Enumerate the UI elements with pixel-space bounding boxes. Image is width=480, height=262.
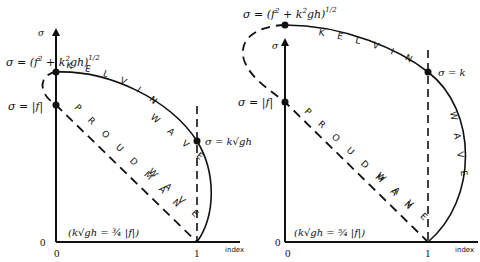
kgh-point-label: σ = k√gh bbox=[205, 136, 252, 147]
x-axis-label: index bbox=[225, 246, 244, 254]
kelvin-wave-curve bbox=[285, 25, 466, 242]
proudman-wave-curve bbox=[42, 72, 197, 242]
kelvin-label: K E L V I N bbox=[318, 27, 419, 66]
x-tick-1: 1 bbox=[425, 247, 431, 259]
y-axis-label: σ bbox=[38, 28, 45, 38]
left-panel: σ σ = (f2 + k2gh)1/2 σ = |f| σ = k√gh K … bbox=[6, 28, 252, 259]
kgh-point bbox=[425, 69, 432, 76]
x-tick-0: 0 bbox=[54, 247, 60, 259]
dispersion-diagram: σ σ = (f2 + k2gh)1/2 σ = |f| σ = k√gh K … bbox=[0, 0, 480, 262]
x-tick-1: 1 bbox=[194, 247, 200, 259]
f-point bbox=[53, 102, 60, 109]
x-tick-0: 0 bbox=[285, 247, 291, 259]
right-panel: σ σ = (f2 + k2gh)1/2 σ = |f| σ = k K E L… bbox=[238, 6, 478, 259]
kelvin-wave-label: W A V E bbox=[448, 111, 470, 182]
kgh-point bbox=[194, 138, 201, 145]
proudman-wave-label: W A V E bbox=[147, 166, 205, 222]
x-axis-label: index bbox=[455, 246, 474, 254]
f-point bbox=[282, 99, 289, 106]
f-point-label: σ = |f| bbox=[238, 96, 273, 110]
y-axis-label: σ bbox=[272, 41, 279, 51]
top-point bbox=[282, 22, 289, 29]
condition-label: (k√gh = ⁵⁄₄ |f|) bbox=[294, 227, 365, 239]
proudman-label: P R O U D M A N bbox=[73, 102, 186, 212]
kgh-point-label: σ = k bbox=[438, 67, 466, 78]
f-point-label: σ = |f| bbox=[8, 100, 43, 114]
top-point-label: σ = (f2 + k2gh)1/2 bbox=[243, 6, 337, 21]
y-tick-0: 0 bbox=[275, 236, 281, 248]
y-tick-0: 0 bbox=[40, 236, 46, 248]
top-point bbox=[53, 69, 60, 76]
condition-label: (k√gh = ¾ |f|) bbox=[68, 227, 139, 239]
